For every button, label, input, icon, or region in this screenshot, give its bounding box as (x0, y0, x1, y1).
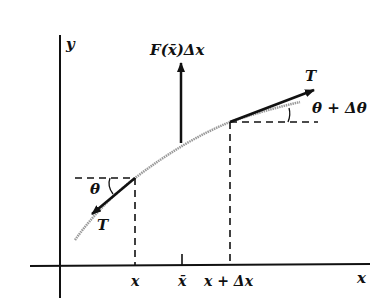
angle-arc-left (109, 178, 113, 194)
tension-right-arrow (230, 90, 314, 122)
angle-left-label: θ (90, 180, 100, 198)
tick-label-x: x (130, 273, 140, 289)
x-axis-label: x (356, 269, 367, 287)
x-axis (30, 264, 370, 266)
tension-left-label: T (97, 216, 110, 234)
tension-right-label: T (305, 67, 318, 85)
force-label: F(x̄)Δx (149, 41, 205, 59)
tick-label-xbar: x̄ (177, 273, 187, 289)
tick-label-x-plus-dx: x + Δx (203, 273, 254, 289)
y-axis-label: y (65, 35, 76, 53)
angle-right-label: θ + Δθ (312, 99, 367, 117)
angle-arc-right (288, 108, 290, 122)
string-element-diagram: y x F(x̄)Δx T T θ θ + Δθ x x̄ x + Δx (0, 0, 387, 305)
